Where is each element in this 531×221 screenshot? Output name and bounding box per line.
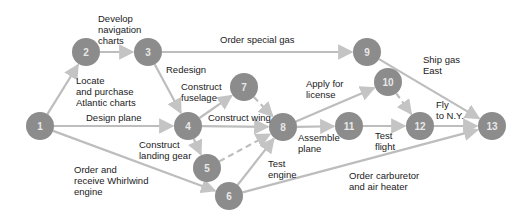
node-number: 12: [414, 121, 426, 132]
node-7: 7: [230, 73, 258, 101]
node-number: 11: [344, 121, 355, 132]
node-13: 13: [478, 112, 506, 140]
node-number: 6: [226, 191, 232, 202]
edge-5-8: [219, 134, 269, 161]
label-redesign: Redesign: [166, 64, 206, 75]
label-develop-navigation-charts: Develop navigation charts: [98, 13, 141, 46]
node-number: 2: [83, 47, 89, 58]
node-number: 1: [37, 121, 43, 132]
node-number: 9: [364, 47, 370, 58]
edge-4-5: [194, 139, 201, 155]
label-apply-for-license: Apply for license: [306, 78, 344, 100]
label-design-plane: Design plane: [86, 112, 141, 123]
node-number: 8: [280, 122, 286, 133]
label-order-receive-engine: Order and receive Whirlwind engine: [74, 164, 148, 197]
edge-8-11: [297, 126, 334, 127]
node-2: 2: [72, 38, 100, 66]
label-construct-wing: Construct wing: [208, 112, 271, 123]
node-number: 4: [185, 121, 191, 132]
node-5: 5: [193, 154, 221, 182]
node-8: 8: [269, 113, 297, 141]
label-assemble-plane: Assemble plane: [298, 132, 340, 154]
node-4: 4: [174, 112, 202, 140]
node-9: 9: [353, 38, 381, 66]
label-fly-to-ny: Fly to N.Y.: [436, 99, 464, 121]
node-number: 5: [204, 163, 210, 174]
node-number: 10: [382, 77, 394, 88]
node-6: 6: [215, 182, 243, 210]
label-construct-fuselage: Construct fuselage: [181, 81, 222, 103]
edge-4-8: [202, 126, 268, 127]
node-10: 10: [374, 68, 402, 96]
node-number: 13: [486, 121, 498, 132]
label-construct-landing-gear: Construct landing gear: [139, 139, 191, 161]
label-test-engine: Test engine: [268, 158, 297, 180]
edge-1-2: [47, 65, 78, 114]
label-ship-gas-east: Ship gas East: [423, 54, 460, 76]
label-order-carburetor: Order carburetor and air heater: [349, 170, 419, 192]
node-1: 1: [26, 112, 54, 140]
node-number: 3: [145, 47, 151, 58]
node-12: 12: [406, 112, 434, 140]
node-number: 7: [241, 82, 247, 93]
label-order-special-gas: Order special gas: [220, 34, 294, 45]
edge-10-12: [396, 93, 411, 114]
label-test-flight: Test flight: [375, 130, 395, 152]
label-locate-purchase-charts: Locate and purchase Atlantic charts: [76, 75, 136, 108]
